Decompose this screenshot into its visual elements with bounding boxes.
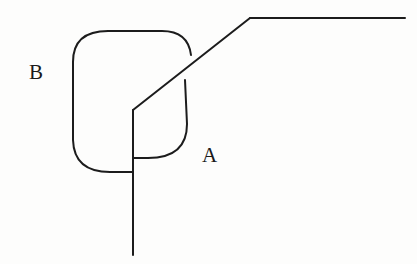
blob-lower-left-arc-path	[73, 118, 133, 172]
line-diagram-svg	[0, 0, 417, 264]
blob-right-arc-path	[133, 80, 187, 158]
figure-canvas: B A	[0, 0, 417, 264]
region-label-a: A	[202, 145, 217, 166]
blob-upper-left-arc-path	[73, 31, 191, 118]
region-label-b: B	[29, 62, 43, 83]
